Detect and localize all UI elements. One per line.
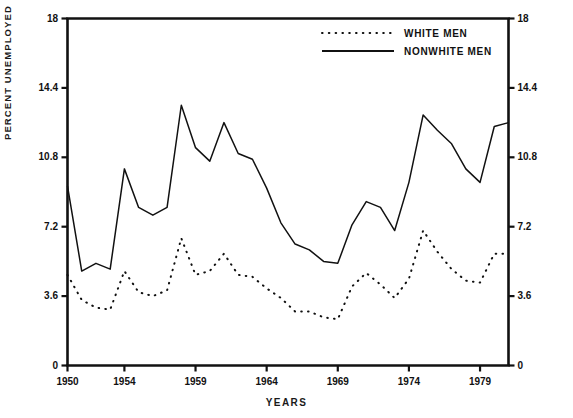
- chart-figure: PERCENT UNEMPLOYED YEARS WHITE MENNONWHI…: [0, 0, 573, 418]
- y-tick-label-right: 7.2: [518, 221, 568, 232]
- y-tick-label-right: 3.6: [518, 290, 568, 301]
- series-line-nonwhite-men: [68, 105, 509, 271]
- y-tick-label-right: 14.4: [518, 82, 568, 93]
- x-tick-label: 1954: [94, 376, 154, 387]
- x-tick-label: 1964: [237, 376, 297, 387]
- data-series-layer: [68, 105, 509, 319]
- x-axis-title: YEARS: [0, 397, 573, 408]
- series-line-white-men: [68, 231, 509, 320]
- y-tick-label-left: 3.6: [8, 290, 58, 301]
- y-tick-label-left: 18: [8, 13, 58, 24]
- y-tick-label-left: 7.2: [8, 221, 58, 232]
- y-tick-label-left: 0: [8, 360, 58, 371]
- x-tick-label: 1950: [38, 376, 98, 387]
- y-tick-label-right: 10.8: [518, 151, 568, 162]
- legend-label: NONWHITE MEN: [404, 46, 492, 57]
- y-tick-label-right: 18: [518, 13, 568, 24]
- x-tick-label: 1969: [308, 376, 368, 387]
- legend-label: WHITE MEN: [404, 28, 468, 39]
- y-tick-label-right: 0: [518, 360, 568, 371]
- x-tick-label: 1959: [166, 376, 226, 387]
- y-tick-label-left: 10.8: [8, 151, 58, 162]
- chart-legend: WHITE MENNONWHITE MEN: [322, 28, 492, 57]
- x-tick-label: 1979: [450, 376, 510, 387]
- y-tick-label-left: 14.4: [8, 82, 58, 93]
- tick-marks: [62, 19, 515, 372]
- plot-canvas: WHITE MENNONWHITE MEN: [0, 0, 573, 418]
- x-tick-label: 1974: [379, 376, 439, 387]
